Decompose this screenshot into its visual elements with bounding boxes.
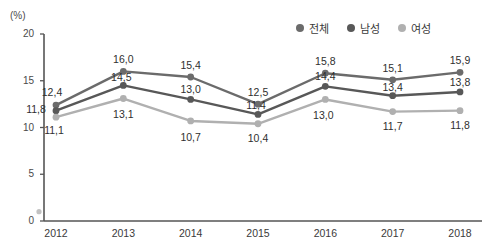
data-point[interactable]	[389, 108, 396, 115]
data-point[interactable]	[457, 107, 464, 114]
data-label: 11,8	[19, 103, 53, 115]
data-point[interactable]	[255, 111, 262, 118]
data-label: 13,0	[306, 109, 340, 121]
data-point[interactable]	[389, 92, 396, 99]
chart-canvas	[0, 0, 484, 248]
data-label: 11,7	[376, 120, 410, 132]
data-point[interactable]	[255, 120, 262, 127]
data-label: 14,4	[308, 70, 342, 82]
data-label: 16,0	[106, 53, 140, 65]
data-label: 15,4	[174, 59, 208, 71]
data-point[interactable]	[53, 114, 60, 121]
data-label: 15,8	[308, 55, 342, 67]
y-tick-15: 15	[12, 75, 34, 86]
data-point[interactable]	[187, 74, 194, 81]
data-label: 12,5	[241, 86, 275, 98]
data-label: 12,4	[35, 86, 69, 98]
x-tick-2015: 2015	[234, 227, 282, 239]
data-point[interactable]	[53, 107, 60, 114]
y-tick-20: 20	[12, 28, 34, 39]
data-label: 11,1	[37, 124, 71, 136]
data-label: 13,8	[443, 76, 477, 88]
data-label: 14,5	[104, 71, 138, 83]
data-label: 10,7	[174, 131, 208, 143]
data-label: 10,4	[241, 132, 275, 144]
y-tick-5: 5	[12, 168, 34, 179]
data-point[interactable]	[187, 96, 194, 103]
data-label: 15,9	[443, 54, 477, 66]
data-point[interactable]	[187, 118, 194, 125]
data-point[interactable]	[322, 96, 329, 103]
data-label: 13,1	[106, 108, 140, 120]
y-tick-10: 10	[12, 122, 34, 133]
x-tick-2014: 2014	[167, 227, 215, 239]
data-label: 13,4	[376, 81, 410, 93]
data-point[interactable]	[322, 83, 329, 90]
x-tick-2018: 2018	[436, 227, 484, 239]
data-label: 11,4	[239, 99, 273, 111]
x-tick-2017: 2017	[369, 227, 417, 239]
data-point[interactable]	[457, 89, 464, 96]
data-label: 13,0	[174, 83, 208, 95]
x-tick-2012: 2012	[32, 227, 80, 239]
chart-axes	[36, 34, 482, 221]
data-label: 11,8	[443, 119, 477, 131]
x-tick-2013: 2013	[99, 227, 147, 239]
data-point[interactable]	[120, 95, 127, 102]
y-tick-0: 0	[12, 215, 34, 226]
data-point[interactable]	[457, 69, 464, 76]
line-chart: (%) 전체 남성 여성 05101520 201220132014201520…	[0, 0, 484, 248]
data-label: 15,1	[376, 62, 410, 74]
x-tick-2016: 2016	[301, 227, 349, 239]
origin-marker	[36, 209, 41, 214]
